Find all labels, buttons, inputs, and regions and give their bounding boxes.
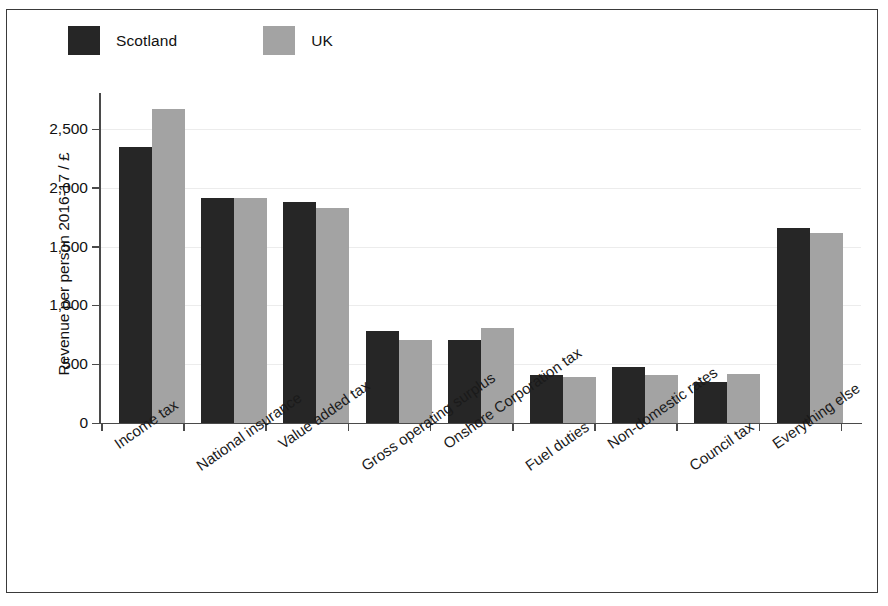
x-axis-label: Income tax — [111, 396, 181, 452]
x-axis-label: Fuel duties — [522, 418, 592, 474]
x-axis-label: Non-domestic rates — [604, 363, 720, 452]
x-axis-labels: Income taxNational insuranceValue added … — [0, 0, 888, 606]
x-axis-label: Council tax — [686, 417, 757, 473]
figure-container: Scotland UK Revenue per person 2016-17 /… — [0, 0, 888, 606]
x-axis-label: Everything else — [769, 379, 863, 452]
x-axis-label: Value added tax — [275, 376, 373, 451]
plot-area: Revenue per person 2016-17 / £ 05001,000… — [0, 0, 888, 606]
